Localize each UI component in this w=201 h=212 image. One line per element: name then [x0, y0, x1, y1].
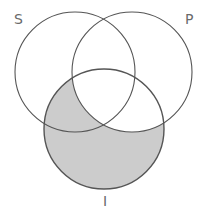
- label-p: P: [185, 11, 193, 27]
- label-i: I: [103, 193, 107, 209]
- venn-diagram: S P I: [0, 0, 201, 212]
- label-s: S: [14, 11, 23, 27]
